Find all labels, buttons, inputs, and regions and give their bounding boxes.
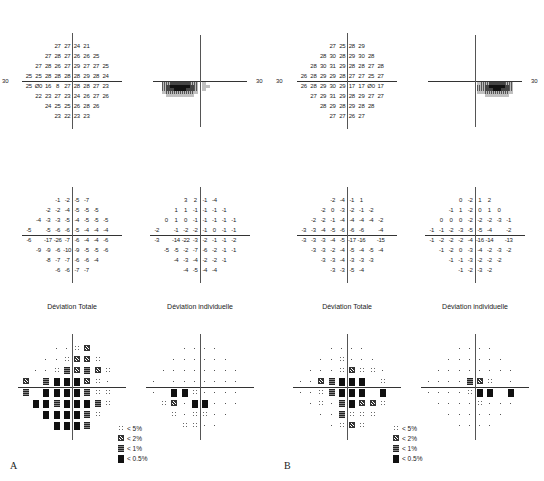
p05-block-icon (64, 389, 70, 397)
normal-dot-icon (182, 400, 188, 407)
p05-block-icon (43, 389, 49, 397)
normal-dot-icon (508, 378, 514, 385)
panel-b-pattern-deviation-value: -1 (503, 217, 515, 223)
p05-block-icon (487, 389, 493, 397)
normal-dot-icon (308, 378, 314, 385)
p1-pattern-icon (329, 389, 335, 396)
normal-dot-icon (212, 356, 218, 363)
p5-pattern-icon (359, 422, 365, 429)
panel-a-total-deviation-value: -5 (23, 227, 35, 233)
p2-pattern-icon (84, 345, 90, 351)
p2-pattern-icon (84, 356, 90, 362)
panel-b-total-deviation-value: -15 (375, 237, 387, 243)
p05-block-icon (74, 389, 80, 397)
p1-pattern-icon (95, 400, 101, 407)
p1-pattern-icon (467, 378, 473, 385)
normal-dot-icon (43, 356, 49, 363)
normal-dot-icon (223, 400, 229, 407)
normal-dot-icon (318, 356, 324, 363)
panel-b-total-deviation-value: -4 (375, 247, 387, 253)
p5-pattern-icon (54, 367, 60, 374)
panel-b-total-deviation-title: Déviation Totale (287, 303, 407, 310)
legend-label: < 0.5% (402, 455, 422, 462)
normal-dot-icon (359, 356, 365, 363)
normal-dot-icon (446, 378, 452, 385)
normal-dot-icon (318, 411, 324, 418)
panel-a-total-deviation-value: -6 (23, 237, 35, 243)
panel-b-pattern-deviation-value: -2 (493, 257, 505, 263)
normal-dot-icon (212, 345, 218, 352)
normal-dot-icon (329, 367, 335, 374)
p2-pattern-icon (349, 367, 355, 373)
panel-a-grayscale-cell (194, 115, 198, 118)
p05-block-icon (64, 400, 70, 408)
normal-dot-icon (477, 422, 483, 429)
p5-pattern-icon (118, 425, 124, 432)
normal-dot-icon (233, 400, 239, 407)
p05-block-icon (359, 389, 365, 397)
p5-pattern-icon (318, 389, 324, 396)
p1-pattern-icon (43, 378, 49, 385)
normal-dot-icon (467, 422, 473, 429)
normal-dot-icon (54, 356, 60, 363)
normal-dot-icon (457, 356, 463, 363)
p1-pattern-icon (84, 389, 90, 396)
p05-block-icon (202, 400, 208, 408)
normal-dot-icon (457, 345, 463, 352)
p05-block-icon (393, 455, 399, 463)
normal-dot-icon (233, 367, 239, 374)
p05-block-icon (349, 400, 355, 408)
legend-label: < 2% (402, 435, 417, 442)
p5-pattern-icon (318, 400, 324, 407)
normal-dot-icon (212, 411, 218, 418)
normal-dot-icon (212, 367, 218, 374)
normal-dot-icon (436, 378, 442, 385)
p2-pattern-icon (349, 422, 355, 428)
normal-dot-icon (477, 367, 483, 374)
panel-a-pattern-probability-vertical-axis (200, 334, 201, 440)
p5-pattern-icon (487, 378, 493, 385)
normal-dot-icon (64, 345, 70, 352)
panel-b-total-deviation-value: -4 (375, 227, 387, 233)
panel-b-axis-30-label-right: 30 (531, 78, 538, 84)
p05-block-icon (54, 389, 60, 397)
panel-a-axis-30-label: 30 (2, 78, 9, 84)
normal-dot-icon (202, 356, 208, 363)
normal-dot-icon (202, 389, 208, 396)
normal-dot-icon (457, 367, 463, 374)
panel-b-grayscale-cell (469, 76, 473, 79)
normal-dot-icon (349, 345, 355, 352)
normal-dot-icon (202, 378, 208, 385)
p05-block-icon (74, 422, 80, 430)
p5-pattern-icon (95, 411, 101, 418)
normal-dot-icon (318, 367, 324, 374)
panel-b-grayscale-cell (485, 115, 489, 118)
panel-a-pattern-deviation-value: -1 (228, 247, 240, 253)
panel-a-total-deviation-value: -6 (100, 237, 112, 243)
panel-b-grayscale-cell (489, 112, 493, 115)
panel-b-pattern-deviation-value: -2 (483, 267, 495, 273)
normal-dot-icon (171, 367, 177, 374)
legend-item: < 5% (118, 424, 147, 434)
legend-label: < 5% (127, 425, 142, 432)
normal-dot-icon (446, 411, 452, 418)
normal-dot-icon (487, 411, 493, 418)
panel-a-grayscale-cell (214, 112, 218, 115)
normal-dot-icon (171, 378, 177, 385)
normal-dot-icon (161, 367, 167, 374)
panel-a-grayscale-cell (210, 115, 214, 118)
p5-pattern-icon (359, 411, 365, 418)
normal-dot-icon (308, 389, 314, 396)
panel-a-grayscale-cell (222, 109, 226, 112)
normal-dot-icon (298, 378, 304, 385)
p2-pattern-icon (359, 400, 365, 406)
normal-dot-icon (202, 345, 208, 352)
p2-pattern-icon (318, 378, 324, 384)
panel-a-pattern-deviation-value: -4 (208, 267, 220, 273)
p05-block-icon (380, 389, 386, 397)
normal-dot-icon (192, 378, 198, 385)
p05-block-icon (339, 389, 345, 397)
normal-dot-icon (446, 400, 452, 407)
panel-b-threshold-value: 28 (365, 53, 377, 59)
normal-dot-icon (329, 400, 335, 407)
